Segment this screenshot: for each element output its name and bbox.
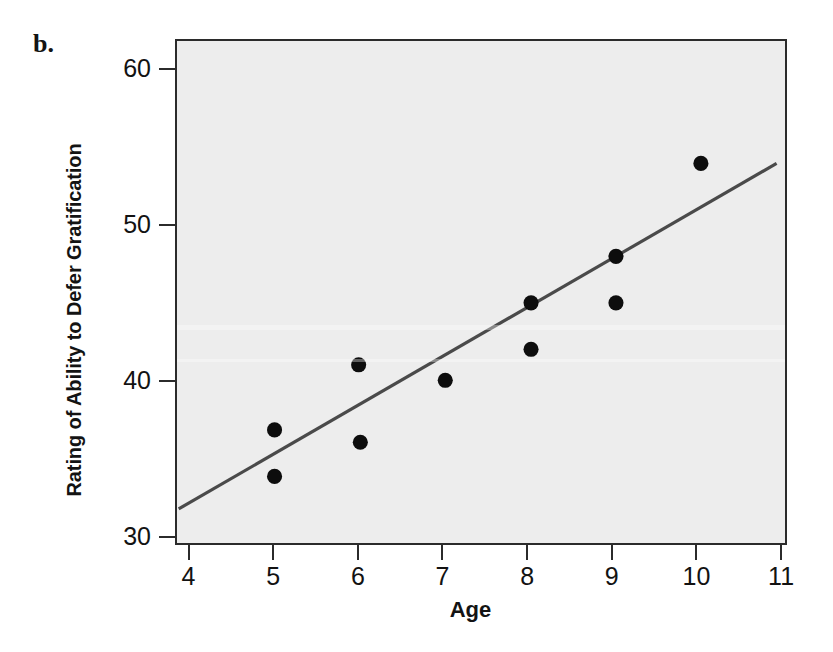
data-point-marker — [351, 357, 366, 372]
y-tick-mark — [159, 224, 175, 226]
x-tick-mark — [526, 545, 528, 560]
data-point-marker — [608, 249, 623, 264]
y-tick-label: 60 — [105, 56, 151, 81]
y-axis-title-container: Rating of Ability to Defer Gratification — [46, 70, 102, 570]
trendline-group — [179, 163, 777, 509]
x-tick-label: 7 — [412, 564, 472, 589]
x-tick-label: 11 — [751, 564, 811, 589]
x-tick-label: 8 — [497, 564, 557, 589]
plot-canvas — [177, 41, 785, 543]
x-tick-label: 6 — [328, 564, 388, 589]
y-tick-label: 40 — [105, 368, 151, 393]
data-point-marker — [267, 469, 282, 484]
x-tick-mark — [695, 545, 697, 560]
x-tick-label: 4 — [159, 564, 219, 589]
panel-letter-label: b. — [33, 31, 54, 57]
regression-trendline — [179, 163, 777, 509]
x-tick-mark — [441, 545, 443, 560]
x-tick-mark — [780, 545, 782, 560]
x-tick-mark — [357, 545, 359, 560]
data-points-group — [267, 156, 708, 484]
data-point-marker — [608, 295, 623, 310]
x-tick-label: 10 — [666, 564, 726, 589]
scatter-plot-figure: b. Rating of Ability to Defer Gratificat… — [0, 0, 833, 652]
data-point-marker — [267, 422, 282, 437]
x-tick-mark — [188, 545, 190, 560]
x-tick-mark — [272, 545, 274, 560]
y-axis-title: Rating of Ability to Defer Gratification — [63, 143, 86, 496]
x-tick-mark — [611, 545, 613, 560]
x-axis-title-container: Age — [0, 597, 833, 623]
data-point-marker — [353, 435, 368, 450]
data-point-marker — [523, 295, 538, 310]
y-tick-label: 50 — [105, 212, 151, 237]
x-axis-title: Age — [450, 597, 492, 622]
x-tick-label: 9 — [582, 564, 642, 589]
data-point-marker — [438, 373, 453, 388]
data-point-marker — [523, 342, 538, 357]
y-tick-mark — [159, 380, 175, 382]
y-tick-label: 30 — [105, 524, 151, 549]
plot-panel — [175, 39, 787, 545]
y-tick-mark — [159, 536, 175, 538]
x-tick-label: 5 — [243, 564, 303, 589]
data-point-marker — [693, 156, 708, 171]
y-tick-mark — [159, 68, 175, 70]
